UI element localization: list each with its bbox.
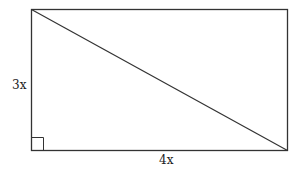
rectangle-diagram: 3x 4x xyxy=(0,0,301,173)
bottom-side-label: 4x xyxy=(159,153,174,167)
left-side-label: 3x xyxy=(12,78,27,92)
right-angle-marker xyxy=(32,138,44,151)
diagonal-line xyxy=(32,10,288,151)
